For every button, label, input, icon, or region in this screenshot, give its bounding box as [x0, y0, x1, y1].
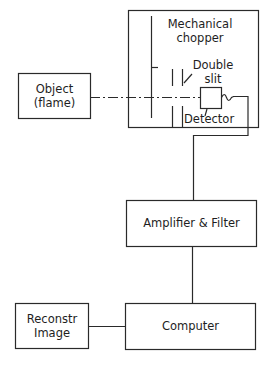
detector-label: Detector: [184, 112, 234, 126]
double-slit-label-line1: Double: [188, 58, 238, 72]
object-label-line2: (flame): [18, 96, 91, 110]
object-label-line1: Object: [18, 82, 91, 96]
reconstr-label: Reconstr Image: [15, 312, 89, 340]
object-label: Object (flame): [18, 82, 91, 110]
computer-label: Computer: [125, 319, 256, 333]
double-slit-label-line2: slit: [188, 72, 238, 86]
amplifier-label: Amplifier & Filter: [126, 216, 257, 230]
double-slit-label: Double slit: [188, 58, 238, 86]
chopper-label-line2: chopper: [155, 31, 245, 45]
chopper-label-line1: Mechanical: [155, 17, 245, 31]
reconstr-label-line2: Image: [15, 326, 89, 340]
chopper-label: Mechanical chopper: [155, 17, 245, 45]
diagram-canvas: [0, 0, 270, 365]
reconstr-label-line1: Reconstr: [15, 312, 89, 326]
detector-box: [201, 88, 222, 109]
signal-wire: [194, 95, 249, 201]
